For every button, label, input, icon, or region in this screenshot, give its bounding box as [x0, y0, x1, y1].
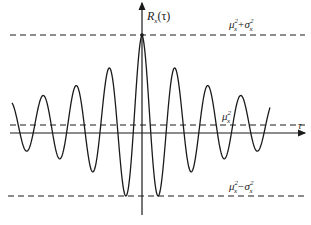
upper-level-label: μ2x+σ2x — [229, 18, 253, 33]
autocorrelation-curve — [12, 35, 270, 196]
mean-level-label: μ2x — [222, 110, 230, 125]
lower-level-label: μ2x−σ2x — [229, 180, 253, 195]
autocorrelation-diagram — [0, 0, 311, 225]
y-axis-label: Rx(τ) — [147, 10, 170, 25]
peak-point — [140, 33, 144, 37]
x-axis-label: τ — [298, 121, 302, 131]
